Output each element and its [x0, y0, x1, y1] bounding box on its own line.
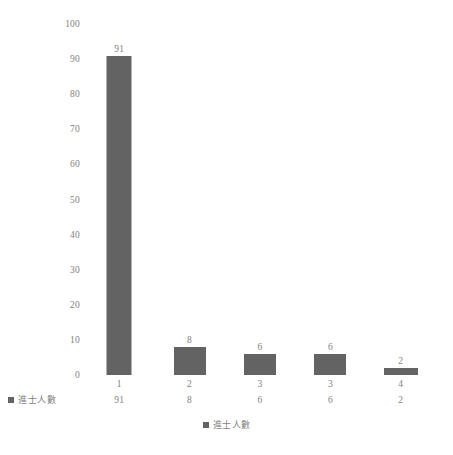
data-table-series-row: 91 8 6 6 2	[0, 393, 453, 408]
series-value: 6	[295, 393, 365, 407]
y-axis: 100 90 80 70 60 50 40 30 20 10 0	[40, 24, 80, 375]
chart-legend: 進士人數	[0, 418, 453, 431]
series-value: 2	[366, 393, 436, 407]
category-label: 4	[366, 377, 436, 391]
y-tick-label: 50	[40, 195, 80, 205]
y-tick-label: 30	[40, 265, 80, 275]
category-label: 3	[295, 377, 365, 391]
series-value: 6	[225, 393, 295, 407]
bar-value-label: 6	[328, 342, 333, 352]
bar-slot: 91	[84, 24, 154, 375]
bar-category-2[interactable]	[174, 347, 206, 375]
y-tick-label: 80	[40, 89, 80, 99]
legend-swatch-icon	[203, 422, 209, 428]
bar-chart: 100 90 80 70 60 50 40 30 20 10 0 91 8 6 …	[0, 0, 453, 455]
category-label: 3	[225, 377, 295, 391]
bar-value-label: 2	[398, 356, 403, 366]
bar-category-1[interactable]	[107, 56, 132, 375]
bar-value-label: 8	[187, 335, 192, 345]
category-label: 1	[84, 377, 154, 391]
series-name-label: 進士人數	[18, 393, 56, 407]
bar-slot: 8	[154, 24, 224, 375]
bar-slot: 6	[225, 24, 295, 375]
data-table: 1 2 3 3 4 91 8 6 6 2 進士人數	[0, 377, 453, 411]
y-tick-label: 20	[40, 300, 80, 310]
plot-area: 91 8 6 6 2	[84, 24, 436, 375]
y-tick-label: 70	[40, 124, 80, 134]
category-label: 2	[154, 377, 224, 391]
bar-category-5[interactable]	[384, 368, 418, 375]
series-value: 8	[154, 393, 224, 407]
series-value: 91	[84, 393, 154, 407]
bar-slot: 2	[366, 24, 436, 375]
bar-value-label: 91	[114, 44, 124, 54]
bar-category-3[interactable]	[244, 354, 276, 375]
data-table-series-header: 進士人數	[8, 393, 56, 407]
bar-category-4[interactable]	[314, 354, 346, 375]
y-tick-label: 60	[40, 159, 80, 169]
y-tick-label: 40	[40, 230, 80, 240]
data-table-category-row: 1 2 3 3 4	[0, 377, 453, 392]
y-tick-label: 90	[40, 54, 80, 64]
y-tick-label: 10	[40, 335, 80, 345]
bar-slot: 6	[295, 24, 365, 375]
legend-entry-label: 進士人數	[213, 418, 251, 431]
legend-swatch-icon	[8, 397, 14, 403]
y-tick-label: 100	[40, 19, 80, 29]
bar-value-label: 6	[258, 342, 263, 352]
legend-entry-jinshi[interactable]: 進士人數	[203, 418, 251, 431]
